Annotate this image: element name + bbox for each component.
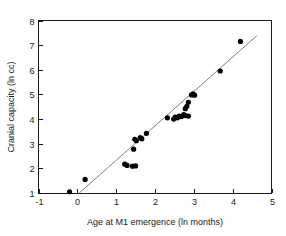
- data-point: [192, 93, 197, 98]
- x-tick-label: -1: [35, 197, 43, 207]
- data-point: [144, 131, 149, 136]
- y-tick-label: 1: [29, 189, 34, 199]
- x-axis-title: Age at M1 emergence (ln months): [87, 217, 223, 227]
- scatter-plot-figure: -1012345 12345678 Age at M1 emergence (l…: [0, 0, 286, 236]
- data-point: [186, 100, 191, 105]
- y-tick-label: 6: [29, 66, 34, 76]
- chart-canvas: -1012345 12345678 Age at M1 emergence (l…: [0, 0, 286, 236]
- data-point: [218, 68, 223, 73]
- data-point: [165, 115, 170, 120]
- x-tick-label: 3: [192, 197, 197, 207]
- data-point: [131, 147, 136, 152]
- x-tick-label: 5: [270, 197, 275, 207]
- data-point: [67, 189, 72, 194]
- data-point: [139, 136, 144, 141]
- x-tick-label: 0: [75, 197, 80, 207]
- x-tick-label: 1: [114, 197, 119, 207]
- x-tick-label: 2: [153, 197, 158, 207]
- x-tick-label: 4: [231, 197, 236, 207]
- y-axis-title: Cranial capacity (ln cc): [6, 61, 16, 152]
- y-tick-label: 8: [29, 17, 34, 27]
- y-tick-label: 2: [29, 164, 34, 174]
- data-point: [238, 39, 243, 44]
- data-point: [83, 177, 88, 182]
- data-point: [133, 163, 138, 168]
- y-tick-label: 4: [29, 115, 34, 125]
- data-point: [124, 163, 129, 168]
- y-tick-label: 3: [29, 140, 34, 150]
- y-tick-label: 5: [29, 90, 34, 100]
- data-point: [186, 114, 191, 119]
- y-tick-label: 7: [29, 41, 34, 51]
